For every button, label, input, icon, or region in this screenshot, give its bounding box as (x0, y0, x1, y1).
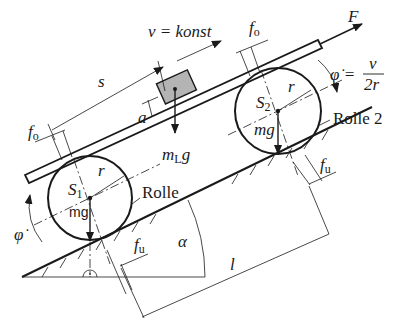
s-label: s (98, 72, 105, 91)
a-ext (142, 97, 158, 104)
fu-right-label: fu (320, 155, 331, 176)
roller1-leader (132, 198, 140, 204)
s-ext-left (48, 124, 55, 140)
velocity-arrow (177, 41, 221, 61)
svg-text:2r: 2r (364, 75, 380, 94)
svg-text:φ̇ =: φ̇ = (330, 65, 355, 84)
phi-dot-formula: φ̇ = v 2r (330, 54, 384, 94)
roller2-label: Rolle 2 (333, 109, 383, 128)
r2-label: r (288, 77, 295, 96)
force-f-arrow (320, 24, 362, 44)
roller-incline-diagram: F v = konst mLg s a fo fo S1 r mg Rolle … (0, 0, 399, 328)
velocity-label: v = konst (148, 22, 213, 41)
svg-text:v: v (369, 54, 377, 73)
force-f-label: F (347, 7, 359, 26)
mg1-label: mg (69, 204, 88, 220)
fo-right-label: fo (249, 18, 260, 39)
mg2-label: mg (254, 120, 275, 139)
alpha-label: α (178, 232, 188, 251)
l-dimension (142, 234, 329, 317)
s1-label: S1 (68, 180, 83, 201)
fo-left-dim (35, 130, 65, 142)
fo-left-ext2 (63, 131, 72, 157)
fo-left-label: fo (28, 122, 39, 143)
phi-dot-left-label: φ̇ (14, 225, 28, 244)
a-dim (148, 100, 152, 116)
l-label: l (230, 255, 235, 274)
l-ext-left (121, 268, 144, 318)
alpha-arc (188, 200, 205, 277)
fu-right-ext (293, 162, 310, 185)
s2-label: S2 (256, 93, 271, 114)
a-label: a (138, 108, 147, 127)
rotation-arrow-left (29, 195, 42, 242)
fo-right-ext1 (240, 51, 250, 76)
r1-label: r (98, 161, 105, 180)
roller1-label: Rolle (142, 183, 179, 202)
l-ext-right (309, 186, 329, 234)
roller-2 (228, 68, 342, 176)
load-weight-label: mLg (162, 145, 190, 166)
fu-left-label: fu (134, 235, 145, 256)
fo-left-ext1 (52, 136, 62, 160)
